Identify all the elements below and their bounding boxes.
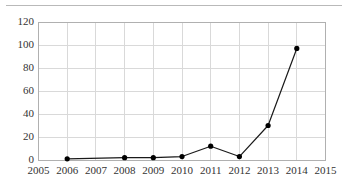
x-tick-label: 2015 bbox=[309, 164, 343, 176]
chart-figure: 020406080100120 200520062007200820092010… bbox=[0, 0, 348, 193]
line-chart: 020406080100120 200520062007200820092010… bbox=[0, 0, 348, 193]
x-axis-tick-labels: 2005200620072008200920102011201220132014… bbox=[0, 0, 348, 193]
